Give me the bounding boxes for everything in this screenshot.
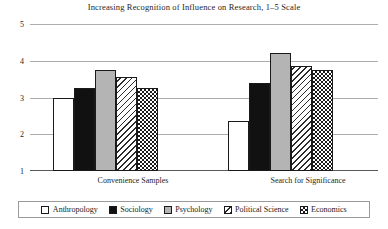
y-axis-tick-2: 2: [0, 130, 24, 139]
bar-convenience-sociology: [74, 88, 95, 171]
plot-area: [30, 24, 378, 171]
legend-label-economics: Economics: [311, 206, 347, 214]
legend-label-political-science: Political Science: [235, 206, 289, 214]
legend-swatch-economics-icon: [300, 206, 308, 214]
y-axis-tick-4: 4: [0, 56, 24, 65]
legend-item-economics[interactable]: Economics: [300, 206, 347, 214]
legend-item-political-science[interactable]: Political Science: [224, 206, 289, 214]
y-axis-tick-1: 1: [0, 167, 24, 176]
legend-label-anthropology: Anthropology: [53, 206, 98, 214]
legend-label-sociology: Sociology: [120, 206, 152, 214]
x-axis-label-search-significance: Search for Significance: [270, 176, 345, 185]
x-axis-label-convenience-samples: Convenience Samples: [98, 176, 169, 185]
gridline-5: [30, 24, 378, 25]
legend-label-psychology: Psychology: [175, 206, 212, 214]
legend-item-sociology[interactable]: Sociology: [109, 206, 153, 214]
bar-significance-sociology: [249, 83, 270, 171]
y-axis-tick-5: 5: [0, 20, 24, 29]
y-axis-tick-3: 3: [0, 93, 24, 102]
bar-significance-economics: [312, 70, 333, 171]
bar-chart: Increasing Recognition of Influence on R…: [0, 0, 388, 229]
bar-significance-anthropology: [228, 121, 249, 171]
bar-convenience-economics: [137, 88, 158, 171]
bar-convenience-anthropology: [53, 98, 74, 172]
bar-convenience-political-science: [116, 77, 137, 171]
chart-legend: Anthropology Sociology Psychology Politi…: [18, 201, 370, 218]
bar-convenience-psychology: [95, 70, 116, 171]
bar-significance-psychology: [270, 53, 291, 171]
legend-swatch-political-science-icon: [224, 206, 232, 214]
legend-swatch-psychology-icon: [164, 206, 172, 214]
chart-title: Increasing Recognition of Influence on R…: [0, 2, 388, 12]
legend-item-psychology[interactable]: Psychology: [164, 206, 213, 214]
bar-significance-political-science: [291, 66, 312, 171]
legend-swatch-anthropology-icon: [41, 206, 49, 214]
gridline-4: [30, 61, 378, 62]
legend-item-anthropology[interactable]: Anthropology: [41, 206, 97, 214]
legend-swatch-sociology-icon: [109, 206, 117, 214]
